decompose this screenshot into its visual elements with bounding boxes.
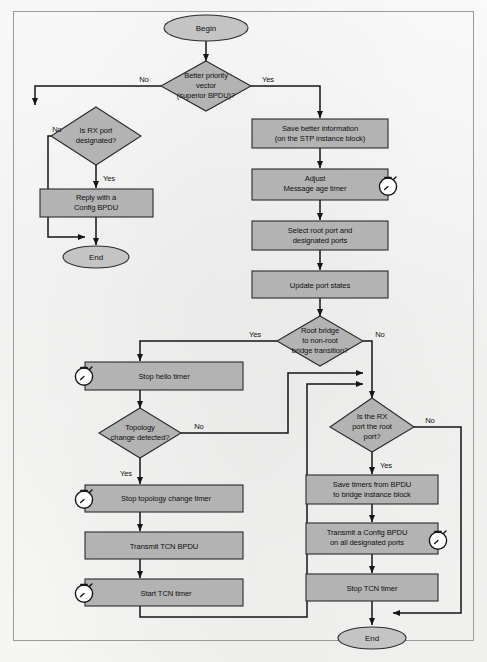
node-rx-designated-line2: designated?	[76, 136, 116, 145]
node-reply-line1: Reply with a	[76, 193, 117, 202]
node-stop-topology-change-timer[interactable]: Stop topology change timer	[85, 485, 243, 512]
node-update-port-states[interactable]: Update port states	[252, 271, 388, 298]
edge-better-yes	[251, 86, 320, 118]
node-better-priority-line1: Better priority	[184, 71, 228, 80]
edge-label-roottrans-yes: Yes	[249, 330, 261, 339]
stopwatch-icon	[75, 367, 92, 385]
edge-label-rxdes-no: No	[52, 125, 62, 134]
node-adjust-line1: Adjust	[305, 174, 326, 183]
node-rxroot-line3: port?	[364, 432, 381, 441]
node-transmit-config-line1: Transmit a Config BPDU	[327, 528, 408, 537]
edge-label-rxroot-no: No	[425, 416, 435, 425]
node-end-left-label: End	[89, 253, 103, 262]
node-save-better-information[interactable]: Save better information (on the STP inst…	[252, 119, 388, 148]
node-begin-label: Begin	[196, 24, 216, 33]
node-start-tcn-timer[interactable]: Start TCN timer	[85, 579, 243, 606]
node-stop-hello-label: Stop hello timer	[138, 372, 190, 381]
node-rxroot-line1: Is the RX	[357, 412, 387, 421]
node-save-better-line2: (on the STP instance block)	[275, 134, 366, 143]
stopwatch-icon	[75, 584, 92, 602]
node-save-timers-line1: Save timers from BPDU	[333, 480, 412, 489]
node-rxroot-line2: port the root	[352, 422, 393, 431]
node-roottrans-line3: bridge transition?	[292, 346, 348, 355]
edge-roottrans-yes	[140, 341, 277, 361]
node-save-better-line1: Save better information	[282, 124, 358, 133]
stopwatch-icon	[379, 177, 396, 195]
node-end-right-label: End	[365, 634, 379, 643]
node-stop-hello-timer[interactable]: Stop hello timer	[85, 362, 243, 390]
node-adjust-message-age-timer[interactable]: Adjust Message age timer	[252, 169, 388, 200]
node-end-left[interactable]: End	[63, 246, 129, 268]
flowchart-page: Begin Better priority vector (superior B…	[0, 0, 487, 662]
node-transmit-tcn-bpdu[interactable]: Transmit TCN BPDU	[85, 532, 243, 559]
flowchart-canvas: Begin Better priority vector (superior B…	[0, 0, 487, 662]
edge-roottrans-no	[363, 341, 372, 398]
edge-label-rxroot-yes: Yes	[380, 461, 392, 470]
node-stop-topo-label: Stop topology change timer	[121, 494, 211, 503]
node-end-right[interactable]: End	[338, 627, 406, 649]
node-is-rx-port-root-port[interactable]: Is the RX port the root port?	[330, 398, 414, 452]
node-better-priority-line3: (superior BPDU)?	[177, 91, 235, 100]
node-root-bridge-transition[interactable]: Root bridge to non-root bridge transitio…	[277, 316, 363, 366]
node-topology-line2: change detected?	[111, 433, 170, 442]
stopwatch-icon	[429, 531, 446, 549]
edge-label-rxdes-yes: Yes	[103, 174, 115, 183]
node-roottrans-line1: Root bridge	[301, 326, 339, 335]
node-select-root-line1: Select root port and	[288, 226, 352, 235]
edge-label-topology-no: No	[194, 422, 204, 431]
node-roottrans-line2: to non-root	[302, 336, 339, 345]
node-stop-tcn-label: Stop TCN timer	[347, 584, 398, 593]
edge-label-better-yes: Yes	[262, 75, 274, 84]
node-stop-tcn-timer[interactable]: Stop TCN timer	[306, 574, 438, 601]
edge-label-topology-yes: Yes	[120, 469, 132, 478]
node-transmit-config-bpdu[interactable]: Transmit a Config BPDU on all designated…	[306, 523, 438, 554]
node-update-states-label: Update port states	[290, 281, 351, 290]
node-select-root-port[interactable]: Select root port and designated ports	[252, 221, 388, 250]
node-select-root-line2: designated ports	[293, 236, 348, 245]
node-reply-with-config-bpdu[interactable]: Reply with a Config BPDU	[40, 189, 153, 217]
node-begin[interactable]: Begin	[164, 15, 248, 41]
node-reply-line2: Config BPDU	[74, 203, 118, 212]
node-topology-change-detected[interactable]: Topology change detected?	[99, 408, 181, 458]
node-better-priority-line2: vector	[196, 81, 217, 90]
node-rx-designated-line1: Is RX port	[80, 126, 114, 135]
node-is-rx-port-designated[interactable]: Is RX port designated?	[51, 107, 141, 165]
node-save-timers-from-bpdu[interactable]: Save timers from BPDU to bridge instance…	[306, 475, 438, 504]
node-topology-line1: Topology	[125, 423, 155, 432]
node-adjust-line2: Message age timer	[284, 184, 347, 193]
edge-label-roottrans-no: No	[375, 330, 385, 339]
stopwatch-icon	[75, 490, 92, 508]
node-start-tcn-label: Start TCN timer	[140, 589, 192, 598]
edge-better-no	[35, 86, 161, 105]
node-transmit-config-line2: on all designated ports	[330, 538, 404, 547]
node-better-priority-vector[interactable]: Better priority vector (superior BPDU)?	[161, 61, 251, 111]
edge-label-better-no: No	[139, 75, 149, 84]
node-save-timers-line2: to bridge instance block	[333, 490, 411, 499]
node-transmit-tcn-label: Transmit TCN BPDU	[130, 542, 198, 551]
